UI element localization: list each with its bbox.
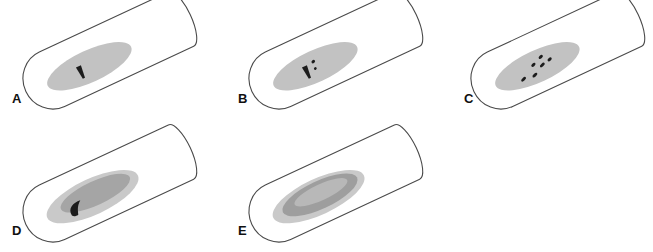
panel-label-a: A	[12, 91, 22, 106]
panel-label-e: E	[238, 223, 247, 238]
panel-label-b: B	[238, 91, 247, 106]
figure-canvas: ABCDE	[0, 0, 653, 252]
panel-label-d: D	[12, 223, 21, 238]
panel-label-c: C	[464, 91, 474, 106]
